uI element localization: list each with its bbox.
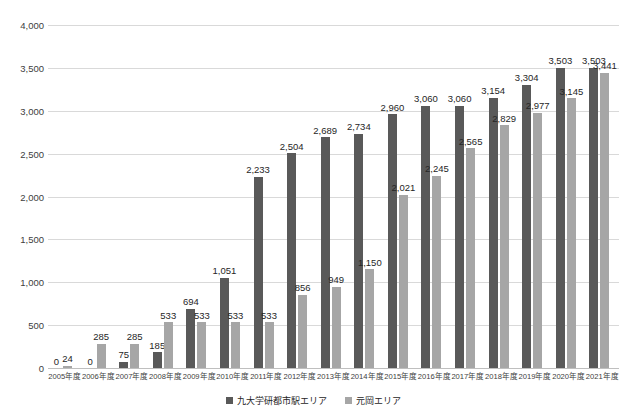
- bar-value-label: 2,233: [246, 165, 270, 175]
- bar-group: 2,7341,150: [350, 25, 384, 368]
- bar-group: 185533: [149, 25, 183, 368]
- bar-value-label: 533: [228, 311, 244, 321]
- bar[interactable]: [287, 153, 296, 368]
- bar-value-label: 2,245: [425, 164, 449, 174]
- x-axis-tick-label: 2018年度: [485, 370, 518, 381]
- bar[interactable]: [466, 148, 475, 368]
- bar-value-label: 3,503: [548, 56, 572, 66]
- bar[interactable]: [63, 366, 72, 368]
- bar[interactable]: [567, 98, 576, 368]
- bar-value-label: 3,441: [593, 61, 617, 71]
- chart-legend: 九大学研都市駅エリア元岡エリア: [0, 394, 627, 407]
- bar-value-label: 2,734: [347, 122, 371, 132]
- bar-group: 3,3042,977: [518, 25, 552, 368]
- bar[interactable]: [354, 134, 363, 368]
- bar-group: 3,0602,565: [451, 25, 485, 368]
- y-axis-tick-label: 1,500: [0, 234, 44, 245]
- x-axis-tick-label: 2019年度: [519, 370, 552, 381]
- x-axis-tick-label: 2016年度: [418, 370, 451, 381]
- bar[interactable]: [231, 322, 240, 368]
- bars-layer: 0240285752851855336945331,0515332,233533…: [48, 25, 619, 368]
- bar-value-label: 285: [127, 332, 143, 342]
- bar-group: 0285: [82, 25, 116, 368]
- bar[interactable]: [522, 85, 531, 368]
- bar-value-label: 24: [62, 354, 73, 364]
- legend-swatch-icon: [345, 397, 352, 404]
- y-axis-tick-label: 4,000: [0, 20, 44, 31]
- bar-value-label: 3,304: [515, 73, 539, 83]
- bar-group: 2,689949: [317, 25, 351, 368]
- x-axis-tick-label: 2014年度: [351, 370, 384, 381]
- bar-value-label: 2,960: [380, 103, 404, 113]
- x-axis-tick-label: 2020年度: [552, 370, 585, 381]
- bar-group: 694533: [182, 25, 216, 368]
- bar[interactable]: [97, 344, 106, 368]
- bar[interactable]: [533, 113, 542, 368]
- bar[interactable]: [130, 344, 139, 368]
- bar[interactable]: [254, 177, 263, 368]
- legend-item[interactable]: 元岡エリア: [345, 394, 401, 407]
- bar-value-label: 1,051: [213, 266, 237, 276]
- bar[interactable]: [298, 295, 307, 368]
- x-axis-tick-label: 2021年度: [586, 370, 619, 381]
- bar[interactable]: [600, 73, 609, 368]
- bar-value-label: 2,829: [492, 114, 516, 124]
- bar[interactable]: [332, 287, 341, 368]
- legend-swatch-icon: [226, 397, 233, 404]
- bar[interactable]: [220, 278, 229, 368]
- y-axis-tick-label: 3,000: [0, 105, 44, 116]
- bar-value-label: 3,154: [481, 86, 505, 96]
- legend-label: 元岡エリア: [356, 394, 401, 407]
- bar-value-label: 856: [295, 283, 311, 293]
- bar[interactable]: [321, 137, 330, 368]
- bar-value-label: 2,021: [391, 183, 415, 193]
- bar-chart: 05001,0001,5002,0002,5003,0003,5004,000 …: [0, 0, 627, 417]
- x-axis-tick-label: 2005年度: [48, 370, 81, 381]
- bar[interactable]: [421, 106, 430, 368]
- x-axis: 2005年度2006年度2007年度2008年度2009年度2010年度2011…: [48, 370, 619, 386]
- bar[interactable]: [197, 322, 206, 368]
- bar-value-label: 533: [261, 311, 277, 321]
- bar[interactable]: [365, 269, 374, 368]
- bar-group: 2,9602,021: [384, 25, 418, 368]
- x-axis-tick-label: 2013年度: [317, 370, 350, 381]
- bar-group: 3,5033,145: [552, 25, 586, 368]
- x-axis-tick-label: 2010年度: [216, 370, 249, 381]
- y-axis-tick-label: 3,500: [0, 62, 44, 73]
- bar-group: 2,504856: [283, 25, 317, 368]
- bar[interactable]: [399, 195, 408, 368]
- bar[interactable]: [164, 322, 173, 368]
- legend-item[interactable]: 九大学研都市駅エリア: [226, 394, 327, 407]
- bar-value-label: 3,060: [414, 94, 438, 104]
- bar-value-label: 2,504: [280, 142, 304, 152]
- bar[interactable]: [489, 98, 498, 368]
- x-axis-tick-label: 2015年度: [384, 370, 417, 381]
- y-axis-tick-label: 2,000: [0, 191, 44, 202]
- bar[interactable]: [265, 322, 274, 368]
- bar-group: 3,1542,829: [485, 25, 519, 368]
- bar[interactable]: [589, 68, 598, 368]
- bar[interactable]: [556, 68, 565, 368]
- bar-value-label: 3,060: [448, 94, 472, 104]
- x-axis-tick-label: 2009年度: [183, 370, 216, 381]
- y-axis-tick-label: 1,000: [0, 277, 44, 288]
- bar-value-label: 2,689: [313, 126, 337, 136]
- bar-group: 2,233533: [250, 25, 284, 368]
- bar-value-label: 1,150: [358, 258, 382, 268]
- bar-value-label: 533: [160, 311, 176, 321]
- bar[interactable]: [119, 362, 128, 368]
- bar-value-label: 75: [118, 350, 129, 360]
- bar[interactable]: [432, 176, 441, 369]
- bar-value-label: 0: [87, 357, 92, 367]
- y-axis-tick-label: 500: [0, 320, 44, 331]
- bar-value-label: 3,145: [559, 87, 583, 97]
- y-axis-tick-label: 2,500: [0, 148, 44, 159]
- bar-group: 024: [48, 25, 82, 368]
- bar[interactable]: [388, 114, 397, 368]
- bar[interactable]: [153, 352, 162, 368]
- bar-value-label: 285: [93, 332, 109, 342]
- bar-value-label: 0: [54, 357, 59, 367]
- bar-value-label: 2,977: [526, 101, 550, 111]
- gridline: [48, 368, 619, 369]
- bar[interactable]: [500, 125, 509, 368]
